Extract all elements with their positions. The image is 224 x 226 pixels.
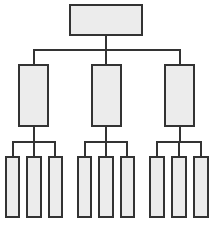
connector-n1-drop-c: [54, 141, 56, 156]
connector-l1-drop-3: [179, 49, 181, 64]
connector-n1-drop-b: [33, 141, 35, 156]
connector-n3-drop-b: [178, 141, 180, 156]
connector-l1-bus: [33, 49, 181, 51]
connector-n2-drop-b: [105, 141, 107, 156]
level2-node-n3c: [193, 156, 209, 218]
org-chart-diagram: [0, 0, 224, 226]
level2-node-n3b: [171, 156, 187, 218]
level1-node-2: [91, 64, 122, 127]
connector-n3-stem: [179, 127, 181, 142]
level2-node-n2a: [77, 156, 92, 218]
connector-n1-stem: [33, 127, 35, 142]
connector-n3-drop-c: [200, 141, 202, 156]
root-node: [69, 4, 143, 36]
level2-node-n2c: [120, 156, 135, 218]
level2-node-n3a: [149, 156, 165, 218]
level2-node-n1c: [48, 156, 63, 218]
connector-l1-drop-1: [33, 49, 35, 64]
connector-n3-drop-a: [156, 141, 158, 156]
level2-node-n1b: [26, 156, 42, 218]
connector-n2-stem: [105, 127, 107, 142]
connector-n2-drop-c: [126, 141, 128, 156]
level2-node-n2b: [98, 156, 114, 218]
connector-l1-drop-2: [105, 49, 107, 64]
connector-n1-drop-a: [12, 141, 14, 156]
level2-node-n1a: [5, 156, 20, 218]
level1-node-3: [164, 64, 195, 127]
level1-node-1: [18, 64, 49, 127]
connector-n2-drop-a: [84, 141, 86, 156]
